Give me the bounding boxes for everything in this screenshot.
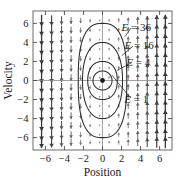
- y-tick-label: 6: [23, 18, 28, 29]
- x-tick-label: 2: [119, 153, 124, 164]
- orbit-label-3: E = 16: [123, 39, 154, 51]
- x-tick-label: −2: [78, 153, 89, 164]
- x-tick-label: 6: [157, 153, 162, 164]
- x-tick-label: −6: [40, 153, 51, 164]
- center-dot-icon: [100, 78, 105, 83]
- orbit-label-4: E = 36: [121, 21, 152, 33]
- orbit-label-1: E = 1: [123, 93, 148, 105]
- x-tick-label: 0: [100, 153, 105, 164]
- y-tick-label: 4: [23, 37, 29, 48]
- y-tick-label: −4: [17, 113, 29, 124]
- phase-portrait-figure: −6−4−202466420−2−4−6 E = 1E = 4E = 16E =…: [0, 0, 184, 187]
- orbit-label-2: E = 4: [125, 56, 150, 68]
- x-tick-label: 4: [138, 153, 144, 164]
- y-tick-label: −2: [17, 94, 28, 105]
- y-tick-label: 2: [23, 56, 28, 67]
- x-tick-label: −4: [59, 153, 71, 164]
- y-tick-label: 0: [23, 75, 28, 86]
- x-axis-label: Position: [84, 166, 122, 178]
- y-tick-label: −6: [17, 132, 28, 143]
- y-axis-label: Velocity: [2, 61, 15, 100]
